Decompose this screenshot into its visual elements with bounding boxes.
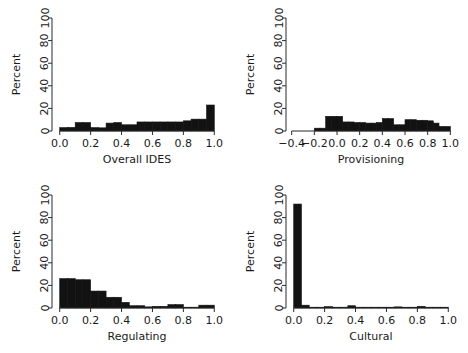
- x-axis-label: Provisioning: [338, 153, 405, 166]
- y-tick-label: 20: [39, 101, 52, 115]
- x-tick-label: 0.2: [351, 137, 369, 150]
- histogram-bar: [122, 302, 130, 308]
- histogram-bar: [160, 122, 168, 131]
- panel-provisioning: 020406080100−0.4−0.20.00.20.40.60.81.0Pr…: [234, 0, 468, 177]
- x-tick-label: 0.0: [51, 137, 69, 150]
- panel-cultural: 0204060801000.00.20.40.60.81.0CulturalPe…: [234, 177, 468, 353]
- y-tick-label: 100: [39, 8, 52, 29]
- histogram-bar: [377, 123, 383, 131]
- histogram-bar: [326, 116, 332, 131]
- histogram-bar: [416, 120, 422, 131]
- x-tick-label: 1.0: [440, 314, 458, 327]
- x-tick-label: 1.0: [206, 314, 224, 327]
- x-tick-label: 0.0: [285, 314, 303, 327]
- y-axis-label: Percent: [244, 53, 257, 95]
- y-tick-label: 40: [39, 256, 52, 270]
- histogram-bar: [129, 125, 137, 131]
- histogram-bar: [168, 122, 176, 131]
- histogram-bar: [191, 119, 199, 131]
- x-tick-label: 0.4: [374, 137, 392, 150]
- y-tick-label: 0: [273, 305, 286, 312]
- x-tick-label: 0.4: [113, 314, 131, 327]
- histogram-bar: [83, 280, 91, 308]
- x-tick-label: 0.2: [82, 137, 100, 150]
- histogram-bar: [183, 121, 191, 131]
- y-tick-label: 40: [273, 256, 286, 270]
- y-tick-label: 100: [273, 185, 286, 206]
- histogram-bar: [337, 116, 343, 131]
- histogram-bar: [331, 116, 337, 131]
- histogram-bars: [60, 279, 215, 308]
- histogram-bar: [354, 123, 360, 131]
- x-tick-label: 0.2: [316, 314, 334, 327]
- histogram-bar: [176, 305, 184, 308]
- x-tick-label: 0.0: [51, 314, 69, 327]
- histogram-bar: [445, 126, 451, 131]
- x-tick-label: 0.8: [419, 137, 437, 150]
- histogram-bar: [371, 123, 377, 131]
- x-tick-label: 0.8: [175, 137, 193, 150]
- histogram-bars: [294, 204, 449, 308]
- x-tick-label: 0.8: [175, 314, 193, 327]
- x-tick-label: 0.4: [113, 137, 131, 150]
- x-tick-label: 0.2: [82, 314, 100, 327]
- x-tick-label: 0.8: [409, 314, 427, 327]
- panel-overall-ides: 0204060801000.00.20.40.60.81.0Overall ID…: [0, 0, 234, 177]
- histogram-bar: [137, 122, 145, 131]
- histogram-bar: [60, 128, 68, 131]
- histogram-bar: [343, 122, 349, 131]
- x-tick-label: 0.4: [347, 314, 365, 327]
- x-axis-label: Cultural: [349, 330, 392, 343]
- histogram-bars: [314, 116, 450, 131]
- histogram-bar: [439, 126, 445, 131]
- histogram-bar: [114, 123, 122, 131]
- x-tick-label: 0.6: [144, 137, 162, 150]
- histogram-bar: [60, 279, 68, 308]
- panel-regulating: 0204060801000.00.20.40.60.81.0Regulating…: [0, 177, 234, 353]
- y-tick-label: 40: [39, 79, 52, 93]
- histogram-bar: [122, 125, 130, 131]
- y-axis-label: Percent: [10, 230, 23, 272]
- y-tick-label: 80: [39, 211, 52, 225]
- histogram-bar: [399, 125, 405, 131]
- y-tick-label: 60: [39, 233, 52, 247]
- histogram-bar: [433, 123, 439, 131]
- histogram-bar: [75, 123, 83, 131]
- y-axis-label: Percent: [10, 53, 23, 95]
- y-tick-label: 60: [273, 233, 286, 247]
- histogram-bar: [382, 119, 388, 131]
- x-axis-label: Regulating: [108, 330, 167, 343]
- histogram-bar: [75, 280, 83, 308]
- x-tick-label: 0.6: [144, 314, 162, 327]
- y-tick-label: 100: [273, 8, 286, 29]
- y-tick-label: 80: [39, 34, 52, 48]
- histogram-bar: [106, 123, 114, 131]
- histogram-bar: [98, 291, 106, 308]
- x-tick-label: 1.0: [442, 137, 460, 150]
- histogram-bar: [168, 305, 176, 308]
- histogram-bar: [83, 123, 91, 131]
- y-tick-label: 0: [39, 128, 52, 135]
- y-tick-label: 80: [273, 211, 286, 225]
- x-tick-label: 1.0: [206, 137, 224, 150]
- histogram-bar: [67, 127, 75, 131]
- histogram-bar: [199, 119, 207, 131]
- histogram-bar: [394, 125, 400, 131]
- histogram-bar: [348, 122, 354, 131]
- histogram-bar: [106, 297, 114, 308]
- histogram-bars: [60, 105, 215, 131]
- y-tick-label: 40: [273, 79, 286, 93]
- y-axis-label: Percent: [244, 230, 257, 272]
- histogram-bar: [360, 123, 366, 131]
- x-axis-label: Overall IDES: [103, 153, 171, 166]
- x-tick-label: 0.6: [396, 137, 414, 150]
- y-tick-label: 60: [273, 56, 286, 70]
- y-tick-label: 0: [39, 305, 52, 312]
- figure-grid: 0204060801000.00.20.40.60.81.0Overall ID…: [0, 0, 468, 353]
- histogram-bar: [91, 128, 99, 131]
- histogram-bar: [405, 120, 411, 131]
- histogram-bar: [67, 279, 75, 308]
- histogram-bar: [428, 121, 434, 131]
- histogram-bar: [365, 123, 371, 131]
- histogram-bar: [145, 122, 153, 131]
